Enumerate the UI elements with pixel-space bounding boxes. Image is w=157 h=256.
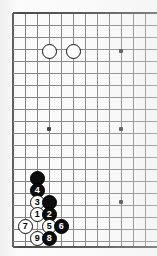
go-board-diagram: 431275698	[0, 0, 157, 256]
board-edge-bottom	[13, 246, 157, 248]
board-grid	[0, 0, 157, 256]
star-point-5	[119, 200, 123, 204]
white-stone-move-7: 7	[18, 219, 33, 234]
grid-line-horizontal	[13, 97, 157, 98]
stone-move-number: 7	[23, 221, 28, 230]
black-stone-move-8: 8	[42, 231, 57, 246]
board-edge-top	[13, 12, 157, 14]
stone-move-number: 1	[35, 209, 40, 218]
grid-line-horizontal	[13, 73, 157, 74]
grid-line-horizontal	[13, 121, 157, 122]
star-point-3	[47, 127, 51, 131]
grid-line-horizontal	[13, 157, 157, 158]
grid-line-horizontal	[13, 145, 157, 146]
grid-line-horizontal	[13, 25, 157, 26]
star-point-2	[119, 49, 123, 53]
stone-move-number: 6	[59, 221, 64, 230]
stone-move-number: 4	[35, 185, 40, 194]
stone-move-number: 2	[47, 209, 52, 218]
grid-line-horizontal	[13, 49, 157, 50]
grid-line-horizontal	[13, 85, 157, 86]
grid-line-horizontal	[13, 61, 157, 62]
white-stone-a	[42, 44, 57, 59]
stone-move-number: 5	[47, 221, 52, 230]
grid-line-horizontal	[13, 133, 157, 134]
grid-line-horizontal	[13, 109, 157, 110]
grid-line-horizontal	[13, 37, 157, 38]
stone-move-number: 8	[47, 233, 52, 242]
white-stone-b	[66, 44, 81, 59]
star-point-4	[119, 127, 123, 131]
stone-move-number: 3	[35, 197, 40, 206]
grid-line-horizontal	[13, 229, 157, 230]
stone-move-number: 9	[35, 233, 40, 242]
grid-line-horizontal	[13, 169, 157, 170]
black-stone-move-6: 6	[54, 219, 69, 234]
